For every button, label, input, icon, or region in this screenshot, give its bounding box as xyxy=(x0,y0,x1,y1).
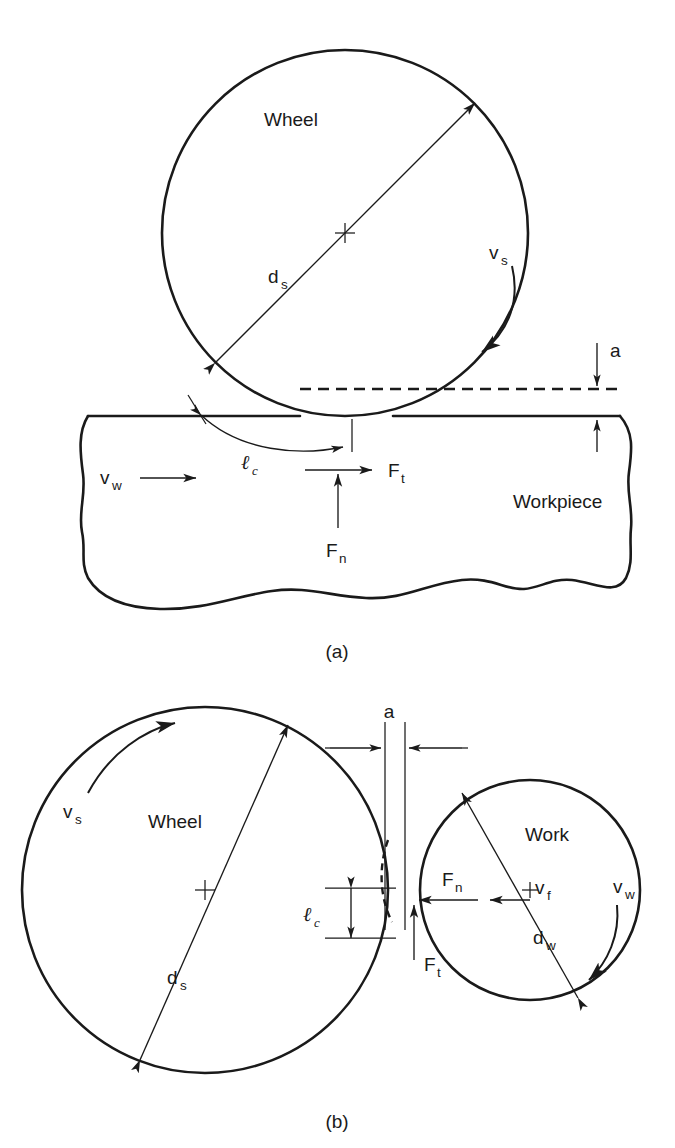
svg-text:F: F xyxy=(326,540,338,561)
panel-b-group: Wheel Work d s d w v s v w v f xyxy=(22,701,640,1132)
label-vw-b: v w xyxy=(613,876,635,902)
svg-text:d: d xyxy=(167,967,178,988)
figure-root: Wheel Workpiece d s v s v w ℓ c F t xyxy=(0,0,675,1148)
workpiece-body-outline-a xyxy=(81,416,632,609)
svg-text:t: t xyxy=(401,471,405,486)
svg-text:d: d xyxy=(268,266,279,287)
wheel-speed-arrow-b xyxy=(88,723,175,793)
label-vf-b: v f xyxy=(535,877,551,903)
label-ds-b: d s xyxy=(167,967,187,993)
svg-text:t: t xyxy=(437,965,441,980)
svg-text:s: s xyxy=(501,253,508,268)
wheel-speed-arrow-a xyxy=(482,266,515,352)
label-ft-b: F t xyxy=(424,954,441,980)
svg-text:n: n xyxy=(455,880,463,895)
svg-text:n: n xyxy=(339,551,347,566)
svg-text:ℓ: ℓ xyxy=(303,903,312,925)
svg-text:w: w xyxy=(111,478,122,493)
svg-text:c: c xyxy=(314,915,320,930)
label-wheel-a: Wheel xyxy=(264,109,318,130)
svg-text:F: F xyxy=(424,954,436,975)
svg-text:d: d xyxy=(533,927,544,948)
svg-text:w: w xyxy=(624,887,635,902)
label-ds-a: d s xyxy=(268,266,288,292)
svg-text:v: v xyxy=(613,876,623,897)
label-vs-a: v s xyxy=(489,242,508,268)
label-lc-a: ℓ c xyxy=(241,451,258,478)
contact-start-tick-a xyxy=(188,395,206,424)
svg-text:s: s xyxy=(281,277,288,292)
label-work-b: Work xyxy=(525,824,569,845)
work-speed-arrow-b xyxy=(589,905,617,980)
label-workpiece-a: Workpiece xyxy=(513,491,602,512)
grinding-diagram-svg: Wheel Workpiece d s v s v w ℓ c F t xyxy=(0,0,675,1148)
svg-text:F: F xyxy=(388,460,400,481)
panel-a-group: Wheel Workpiece d s v s v w ℓ c F t xyxy=(81,50,632,662)
label-ft-a: F t xyxy=(388,460,405,486)
svg-text:s: s xyxy=(75,812,82,827)
svg-text:F: F xyxy=(442,869,454,890)
caption-a: (a) xyxy=(325,641,348,662)
svg-text:v: v xyxy=(63,801,73,822)
svg-text:ℓ: ℓ xyxy=(241,451,250,473)
svg-text:f: f xyxy=(547,888,551,903)
label-lc-b: ℓ c xyxy=(303,903,320,930)
label-a-depth-b: a xyxy=(384,701,395,722)
svg-text:v: v xyxy=(489,242,499,263)
label-fn-b: F n xyxy=(442,869,463,895)
label-vs-b: v s xyxy=(63,801,82,827)
contact-length-arrow-a xyxy=(201,415,343,451)
svg-text:s: s xyxy=(180,978,187,993)
svg-text:c: c xyxy=(252,463,258,478)
caption-b: (b) xyxy=(325,1111,348,1132)
svg-text:w: w xyxy=(545,938,556,953)
wheel-diameter-arrow-a xyxy=(215,103,475,363)
wheel-diameter-arrow-b xyxy=(140,725,288,1060)
label-fn-a: F n xyxy=(326,540,347,566)
label-vw-a: v w xyxy=(100,467,122,493)
label-a-depth-a: a xyxy=(610,340,621,361)
svg-text:v: v xyxy=(535,877,545,898)
label-wheel-b: Wheel xyxy=(148,811,202,832)
svg-text:v: v xyxy=(100,467,110,488)
